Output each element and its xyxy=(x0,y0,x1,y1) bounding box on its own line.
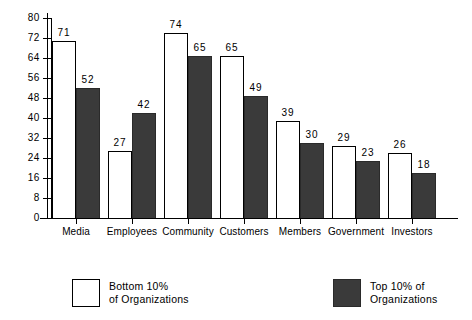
bar-investors-dark xyxy=(412,173,436,218)
legend-label-bottom-line1: Bottom 10% xyxy=(109,280,189,293)
y-tick-72 xyxy=(43,38,52,39)
bar-members-dark xyxy=(300,143,324,218)
y-tick-32 xyxy=(43,138,52,139)
y-tick-label-64: 64 xyxy=(14,53,40,63)
legend-label-top-line2: Organizations xyxy=(370,293,437,306)
y-tick-8 xyxy=(43,198,52,199)
legend-label-top-line1: Top 10% of xyxy=(370,280,437,293)
legend-label-top: Top 10% of Organizations xyxy=(370,279,437,306)
y-tick-label-48: 48 xyxy=(14,93,40,103)
bar-value-investors-dark: 18 xyxy=(404,160,444,170)
bar-value-investors-light: 26 xyxy=(380,140,420,150)
y-tick-label-24: 24 xyxy=(14,153,40,163)
y-axis-line xyxy=(47,13,48,219)
bar-value-community-light: 74 xyxy=(156,20,196,30)
x-axis-line xyxy=(40,218,458,219)
bar-customers-dark xyxy=(244,96,268,219)
y-tick-label-80: 80 xyxy=(14,13,40,23)
y-tick-label-72: 72 xyxy=(14,33,40,43)
y-tick-16 xyxy=(43,178,52,179)
category-label-investors: Investors xyxy=(372,226,452,237)
y-tick-56 xyxy=(43,78,52,79)
legend-item-top-10-percent: Top 10% of Organizations xyxy=(333,279,437,307)
bar-value-customers-light: 65 xyxy=(212,43,252,53)
bar-value-media-light: 71 xyxy=(44,28,84,38)
y-tick-label-8: 8 xyxy=(14,193,40,203)
bar-value-media-dark: 52 xyxy=(68,75,108,85)
y-tick-48 xyxy=(43,98,52,99)
y-tick-label-0: 0 xyxy=(14,213,40,223)
bar-employees-dark xyxy=(132,113,156,218)
bar-chart: 08162432404856647280 7152274274656549393… xyxy=(0,0,472,320)
bar-government-dark xyxy=(356,161,380,219)
y-tick-label-40: 40 xyxy=(14,113,40,123)
y-tick-label-16: 16 xyxy=(14,173,40,183)
y-tick-24 xyxy=(43,158,52,159)
legend-swatch-dark xyxy=(333,279,361,307)
bar-community-light xyxy=(164,33,188,218)
y-tick-0 xyxy=(43,218,52,219)
y-tick-label-56: 56 xyxy=(14,73,40,83)
legend-swatch-light xyxy=(72,279,100,307)
bar-employees-light xyxy=(108,151,132,219)
bar-value-employees-dark: 42 xyxy=(124,100,164,110)
bar-value-members-light: 39 xyxy=(268,108,308,118)
bar-media-light xyxy=(52,41,76,219)
bar-value-government-light: 29 xyxy=(324,133,364,143)
bar-community-dark xyxy=(188,56,212,219)
legend-item-bottom-10-percent: Bottom 10% of Organizations xyxy=(72,279,189,307)
legend-label-bottom-line2: of Organizations xyxy=(109,293,189,306)
y-tick-64 xyxy=(43,58,52,59)
bar-customers-light xyxy=(220,56,244,219)
bar-media-dark xyxy=(76,88,100,218)
legend-label-bottom: Bottom 10% of Organizations xyxy=(109,279,189,306)
bar-value-customers-dark: 49 xyxy=(236,83,276,93)
y-tick-40 xyxy=(43,118,52,119)
y-tick-80 xyxy=(43,18,52,19)
y-tick-label-32: 32 xyxy=(14,133,40,143)
